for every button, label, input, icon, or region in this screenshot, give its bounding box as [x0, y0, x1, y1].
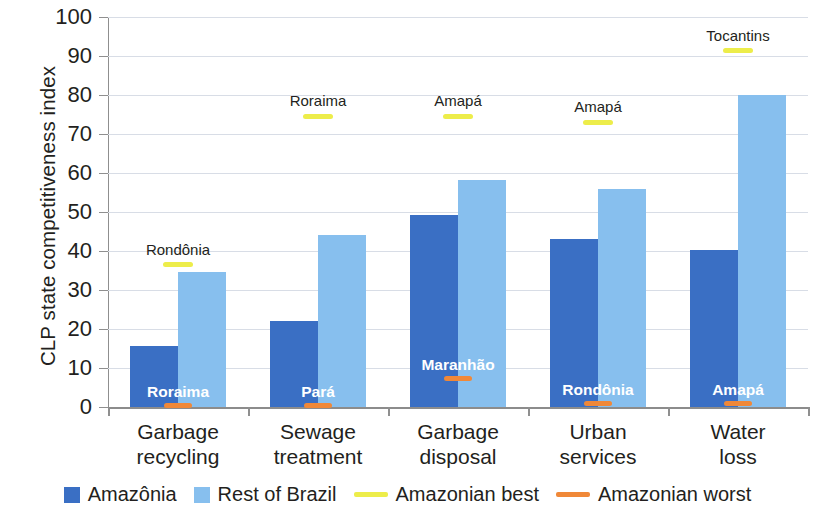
x-tick-mark — [528, 407, 530, 416]
label-amazonian-worst: Pará — [238, 384, 398, 400]
x-axis-category-label: Waterloss — [668, 420, 808, 470]
marker-amazonian-worst — [724, 401, 752, 406]
bar-group: RondôniaRoraima — [108, 17, 248, 407]
bar-group: AmapáMaranhão — [388, 17, 528, 407]
bar-rest-of-brazil[interactable] — [738, 95, 786, 407]
x-axis-category-label: Urbanservices — [528, 420, 668, 470]
label-amazonian-best: Roraima — [238, 93, 398, 108]
legend-item-label: Amazônia — [88, 483, 177, 506]
legend-item[interactable]: Amazonian worst — [556, 483, 751, 506]
x-axis-category-line: Garbage — [388, 420, 528, 445]
legend-item-label: Rest of Brazil — [218, 483, 337, 506]
x-tick-mark — [108, 407, 110, 416]
legend-item[interactable]: Rest of Brazil — [194, 483, 337, 506]
x-axis-category-line: Sewage — [248, 420, 388, 445]
x-axis-category-line: treatment — [248, 445, 388, 470]
marker-amazonian-worst — [444, 376, 472, 381]
label-amazonian-worst: Amapá — [658, 382, 815, 398]
legend-swatch-line — [354, 492, 388, 497]
bar-chart: CLP state competitiveness index 01020304… — [0, 0, 815, 513]
marker-amazonian-best — [723, 48, 753, 53]
marker-amazonian-worst — [584, 401, 612, 406]
x-axis-category-line: recycling — [108, 445, 248, 470]
legend-item[interactable]: Amazonian best — [354, 483, 539, 506]
legend-item-label: Amazonian best — [396, 483, 539, 506]
x-axis-category-label: Garbagerecycling — [108, 420, 248, 470]
x-axis-category-line: Water — [668, 420, 808, 445]
x-axis-category-line: Garbage — [108, 420, 248, 445]
marker-amazonian-worst — [304, 403, 332, 408]
bar-group: RoraimaPará — [248, 17, 388, 407]
y-axis-title: CLP state competitiveness index — [36, 16, 60, 416]
x-axis-category-label: Garbagedisposal — [388, 420, 528, 470]
marker-amazonian-worst — [164, 403, 192, 408]
marker-amazonian-best — [583, 120, 613, 125]
x-axis-category-line: Urban — [528, 420, 668, 445]
label-amazonian-worst: Rondônia — [518, 382, 678, 398]
axis-baseline — [108, 407, 808, 409]
chart-legend: AmazôniaRest of BrazilAmazonian bestAmaz… — [0, 483, 815, 506]
plot-area: RondôniaRoraimaRoraimaParáAmapáMaranhãoA… — [108, 17, 808, 407]
bar-group: TocantinsAmapá — [668, 17, 808, 407]
bar-rest-of-brazil[interactable] — [318, 235, 366, 407]
marker-amazonian-best — [443, 114, 473, 119]
legend-swatch-box — [64, 487, 80, 503]
x-axis-category-line: loss — [668, 445, 808, 470]
label-amazonian-worst: Roraima — [98, 384, 258, 400]
marker-amazonian-best — [163, 262, 193, 267]
label-amazonian-best: Amapá — [378, 93, 538, 108]
legend-item[interactable]: Amazônia — [64, 483, 177, 506]
label-amazonian-worst: Maranhão — [378, 357, 538, 373]
x-tick-mark — [668, 407, 670, 416]
x-axis-category-line: services — [528, 445, 668, 470]
label-amazonian-best: Amapá — [518, 99, 678, 114]
marker-amazonian-best — [303, 114, 333, 119]
x-tick-mark — [388, 407, 390, 416]
bar-rest-of-brazil[interactable] — [598, 189, 646, 407]
legend-item-label: Amazonian worst — [598, 483, 751, 506]
label-amazonian-best: Rondônia — [98, 242, 258, 257]
bar-group: AmapáRondônia — [528, 17, 668, 407]
x-tick-mark — [808, 407, 810, 416]
x-axis-category-label: Sewagetreatment — [248, 420, 388, 470]
x-axis-category-line: disposal — [388, 445, 528, 470]
x-tick-mark — [248, 407, 250, 416]
label-amazonian-best: Tocantins — [658, 28, 815, 43]
legend-swatch-line — [556, 492, 590, 497]
legend-swatch-box — [194, 487, 210, 503]
